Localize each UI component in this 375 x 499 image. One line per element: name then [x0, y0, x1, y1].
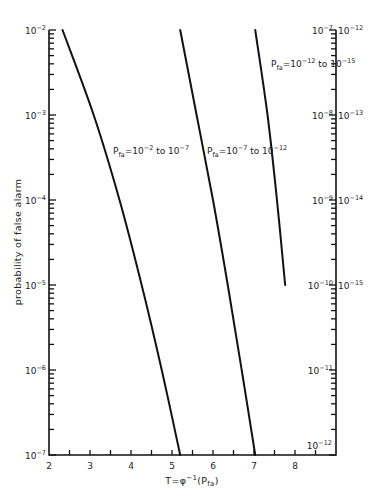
- right-outer-y-tick-label: 10−13: [338, 109, 363, 121]
- left-y-tick-label: 10−6: [25, 364, 46, 376]
- right-outer-y-tick-label: 10−15: [338, 279, 363, 291]
- right-inner-y-tick-label: 10−7: [312, 24, 333, 36]
- x-tick-label: 2: [46, 461, 52, 471]
- curve-series-1: [63, 30, 181, 455]
- x-tick-label: 4: [128, 461, 134, 471]
- right-outer-y-tick-label: 10−14: [338, 194, 363, 206]
- left-y-tick-label: 10−4: [25, 194, 46, 206]
- false-alarm-chart: 234567810−210−310−410−510−610−710−710−81…: [0, 0, 375, 499]
- right-inner-y-tick-label: 10−8: [312, 109, 333, 121]
- x-tick-label: 7: [251, 461, 257, 471]
- right-outer-y-tick-label: 10−12: [338, 24, 363, 36]
- y-axis-title: probability of false alarm: [12, 179, 23, 306]
- x-tick-label: 6: [210, 461, 216, 471]
- left-y-tick-label: 10−7: [25, 449, 46, 461]
- curve-label-2: Pfa=10−7 to 10−12: [207, 144, 287, 159]
- x-axis-title: T=φ−1(Pfa): [164, 474, 218, 488]
- right-inner-y-tick-label: 10−11: [308, 364, 333, 376]
- curve-label-1: Pfa=10−2 to 10−7: [113, 144, 189, 159]
- x-tick-label: 3: [87, 461, 93, 471]
- left-y-tick-label: 10−2: [25, 24, 46, 36]
- curve-series-2: [180, 30, 255, 455]
- curves: [63, 30, 286, 455]
- x-tick-label: 8: [292, 461, 298, 471]
- left-y-tick-label: 10−5: [25, 279, 46, 291]
- labels: 234567810−210−310−410−510−610−710−710−81…: [12, 24, 363, 488]
- x-tick-label: 5: [169, 461, 175, 471]
- right-inner-y-tick-label: 10−9: [312, 194, 333, 206]
- curve-label-3: Pfa=10−12 to 10−15: [271, 57, 355, 72]
- right-inner-y-tick-label: 10−12: [307, 439, 332, 451]
- left-y-tick-label: 10−3: [25, 109, 46, 121]
- right-inner-y-tick-label: 10−10: [308, 279, 333, 291]
